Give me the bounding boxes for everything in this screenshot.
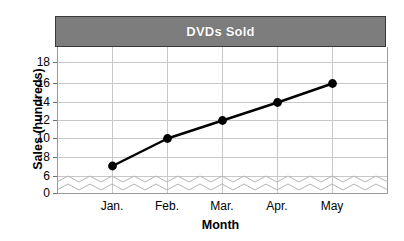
chart-figure: DVDs Sold	[0, 0, 404, 241]
x-tick-label-may: May	[321, 200, 344, 212]
x-tick-label-mar: Mar.	[210, 200, 233, 212]
y-axis-title: Sales (hundreds)	[31, 49, 45, 189]
x-axis-title: Month	[55, 218, 386, 232]
x-tick-label-jan: Jan.	[101, 200, 124, 212]
x-axis-tick-labels: Jan. Feb. Mar. Apr. May	[0, 0, 404, 241]
x-tick-label-feb: Feb.	[155, 200, 179, 212]
x-tick-label-apr: Apr.	[266, 200, 287, 212]
